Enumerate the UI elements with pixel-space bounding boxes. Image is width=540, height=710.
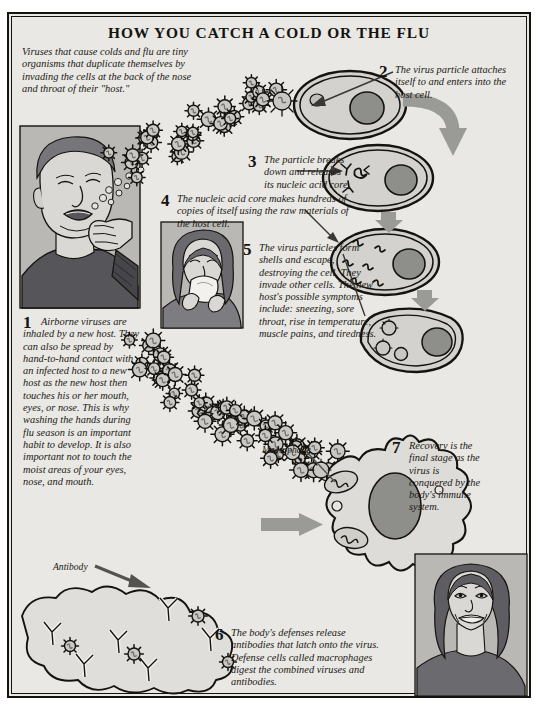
- step-3-text: The particle breaks down and releases it…: [264, 154, 352, 191]
- antibody-pointer: [95, 564, 153, 590]
- flow-arrow-2: [373, 212, 407, 234]
- step-5-number: 5: [243, 241, 252, 258]
- poster-frame: HOW YOU CATCH A COLD OR THE FLU Viruses …: [7, 12, 531, 698]
- flow-arrow-3: [409, 290, 443, 312]
- step-2-text: The virus particle attaches itself to an…: [395, 64, 525, 101]
- step-1-text: Airborne viruses are inhaled by a new ho…: [23, 316, 139, 488]
- page-title: HOW YOU CATCH A COLD OR THE FLU: [9, 24, 529, 42]
- step-4-number: 4: [161, 192, 170, 209]
- illustration-woman-recovered: [415, 554, 527, 696]
- step-6-text: The body's defenses release antibodies t…: [231, 627, 383, 688]
- step-5-text: The virus particles form shells and esca…: [259, 242, 379, 340]
- macrophage-label: Macrophage: [262, 444, 311, 455]
- step-7-text: Recovery is the final stage as the virus…: [409, 440, 481, 514]
- macrophage-pointer: [305, 450, 339, 486]
- step-4-text: The nucleic acid core makes hundreds of …: [177, 193, 349, 230]
- illustration-woman-tissue: [161, 222, 243, 328]
- antibody-label: Antibody: [53, 561, 88, 572]
- step-6-number: 6: [215, 626, 224, 643]
- step-2-number: 2: [379, 63, 388, 80]
- step-3-number: 3: [248, 153, 257, 170]
- virus-particle-attaching: [265, 84, 299, 118]
- antibody-cloud: [22, 580, 246, 698]
- virus-cloud-upper: [105, 70, 285, 180]
- step-7-number: 7: [392, 439, 401, 456]
